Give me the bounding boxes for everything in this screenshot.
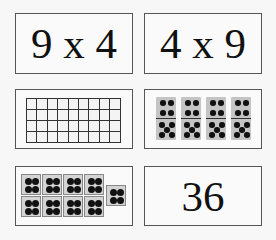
grid-cell [69, 99, 79, 110]
pip-dot [209, 132, 215, 138]
pip-dot [160, 100, 166, 106]
grid-cell [58, 132, 68, 143]
dot [95, 178, 102, 185]
grid-cell [89, 99, 99, 110]
dot [110, 189, 117, 196]
dot [117, 189, 124, 196]
pip-dot [234, 132, 240, 138]
pip-dot [193, 100, 199, 106]
card-product-36[interactable]: 36 [144, 166, 262, 226]
dot [32, 178, 39, 185]
grid-cell [27, 99, 37, 110]
pip-dot [194, 132, 200, 138]
pip-dot [159, 122, 165, 128]
dot-group [63, 174, 83, 195]
dot [53, 178, 60, 185]
pip-dot [210, 100, 216, 106]
expression-4x9: 4 x 9 [145, 14, 261, 73]
pip-dot [235, 110, 241, 116]
pip-dot [210, 110, 216, 116]
pip-dot [168, 110, 174, 116]
pip-dot [189, 127, 195, 133]
pip-dot [235, 100, 241, 106]
dot-group [106, 185, 126, 206]
pip-dot [168, 100, 174, 106]
grid-cell [37, 110, 47, 121]
dot [67, 208, 74, 215]
dot [53, 186, 60, 193]
grid-cell [100, 110, 110, 121]
pip-dot [239, 127, 245, 133]
grid-cell [89, 121, 99, 132]
dot-group [42, 174, 62, 195]
pip-dot [243, 100, 249, 106]
grid-cell [48, 110, 58, 121]
grid-cell [37, 132, 47, 143]
product-value: 36 [145, 167, 261, 225]
card-array-grid[interactable] [15, 89, 133, 149]
pip-dot [184, 132, 190, 138]
grid-cell [48, 132, 58, 143]
pip-dot [234, 122, 240, 128]
dot [95, 186, 102, 193]
pip-dot [169, 122, 175, 128]
pip-dot [160, 110, 166, 116]
grid-cell [110, 121, 120, 132]
pip-dot [184, 122, 190, 128]
domino [206, 97, 226, 140]
dot [95, 208, 102, 215]
dot-group [42, 196, 62, 217]
pip-dot [218, 100, 224, 106]
dot-group [63, 196, 83, 217]
dot [46, 200, 53, 207]
grid-cell [69, 110, 79, 121]
card-9x4[interactable]: 9 x 4 [15, 13, 133, 74]
array-grid-9x4 [26, 98, 121, 143]
dot [67, 178, 74, 185]
grid-cell [89, 132, 99, 143]
grid-cell [89, 110, 99, 121]
grid-cell [79, 121, 89, 132]
dot [74, 208, 81, 215]
grid-cell [58, 121, 68, 132]
dot-group [21, 174, 41, 195]
grid-cell [58, 99, 68, 110]
dot [25, 186, 32, 193]
dot-group [84, 174, 104, 195]
pip-dot [244, 132, 250, 138]
card-4x9[interactable]: 4 x 9 [144, 13, 262, 74]
dot [95, 200, 102, 207]
grid-cell [110, 110, 120, 121]
card-dominoes[interactable] [144, 89, 262, 149]
pip-dot [219, 122, 225, 128]
domino [181, 97, 201, 140]
grid-cell [69, 121, 79, 132]
expression-9x4: 9 x 4 [16, 14, 132, 73]
pip-dot [185, 100, 191, 106]
dot [74, 200, 81, 207]
dot [74, 186, 81, 193]
card-dot-groups[interactable] [15, 166, 133, 226]
pip-dot [185, 110, 191, 116]
grid-cell [79, 99, 89, 110]
pip-dot [209, 122, 215, 128]
pip-dot [193, 110, 199, 116]
grid-cell [27, 132, 37, 143]
grid-cell [79, 132, 89, 143]
pip-dot [243, 110, 249, 116]
grid-cell [79, 110, 89, 121]
pip-dot [219, 132, 225, 138]
grid-cell [27, 110, 37, 121]
dot [32, 208, 39, 215]
grid-cell [48, 121, 58, 132]
dot [25, 208, 32, 215]
dot [46, 186, 53, 193]
dot [88, 186, 95, 193]
dot [53, 208, 60, 215]
pip-dot [159, 132, 165, 138]
dot [25, 178, 32, 185]
dot [46, 208, 53, 215]
dot [32, 186, 39, 193]
dot [32, 200, 39, 207]
grid-cell [69, 132, 79, 143]
